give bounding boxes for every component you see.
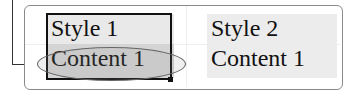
table-cell-content-2[interactable]: Content 1 [207, 44, 337, 78]
fill-handle[interactable] [168, 77, 173, 82]
grid-line [186, 6, 187, 87]
callout-highlight-ellipse [37, 47, 186, 81]
table-cell-style-2[interactable]: Style 2 [207, 14, 337, 44]
callout-connector-vertical [12, 0, 13, 65]
